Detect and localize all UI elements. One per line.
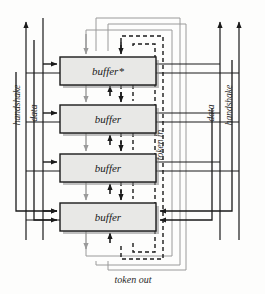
label-token-out: token out — [115, 274, 152, 285]
token-ring-buffer-diagram: buffer* buffer buffer buffer handshake d… — [0, 0, 265, 294]
feedback-wrap-left — [16, 72, 57, 211]
label-handshake-left: handshake — [12, 85, 22, 126]
buffer-block-2[interactable]: buffer — [60, 105, 159, 136]
feedback-wrap-outer — [160, 60, 232, 211]
label-data-right: data — [206, 104, 216, 121]
buffer-block-4[interactable]: buffer — [60, 203, 159, 234]
feedback-wrap-left-2 — [34, 40, 57, 220]
buffer-2-label: buffer — [95, 113, 122, 125]
diagram-canvas: buffer* buffer buffer buffer handshake d… — [0, 0, 265, 294]
right-bus-lines — [156, 22, 239, 240]
label-token-in: token in — [155, 130, 165, 161]
buffer-block-3[interactable]: buffer — [60, 154, 159, 185]
buffer-block-1[interactable]: buffer* — [60, 57, 159, 88]
data-input-arrows — [43, 64, 57, 211]
buffer-1-label: buffer* — [92, 65, 124, 77]
buffer-3-label: buffer — [95, 162, 122, 174]
buffer-blocks: buffer* buffer buffer buffer — [60, 57, 159, 234]
left-bus-lines — [26, 18, 60, 240]
buffer-4-label: buffer — [95, 211, 122, 223]
label-data-left: data — [29, 104, 39, 121]
label-handshake-right: handshake — [224, 85, 234, 126]
